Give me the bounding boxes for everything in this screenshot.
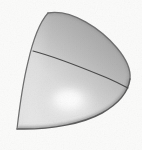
dome-body [10,12,130,150]
dome-left-facet-sheen [17,13,48,129]
specular-core [55,91,81,107]
render-canvas [0,0,142,150]
quarter-dome-figure [0,0,142,150]
